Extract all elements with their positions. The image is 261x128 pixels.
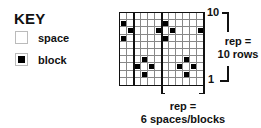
block-cell (190, 63, 197, 70)
space-cell (134, 35, 141, 42)
col-repeat-line1: rep = (135, 100, 231, 113)
space-cell (176, 78, 183, 85)
space-cell (162, 49, 169, 56)
col-bracket-right-tick (199, 93, 204, 95)
space-cell (162, 56, 169, 63)
space-cell (190, 20, 197, 27)
space-cell (183, 49, 190, 56)
space-cell (176, 27, 183, 34)
key-title: KEY (14, 10, 45, 27)
space-cell (183, 27, 190, 34)
space-cell (148, 71, 155, 78)
col-bracket-left-tick (161, 93, 165, 95)
block-cell (183, 71, 190, 78)
space-cell (134, 13, 141, 20)
key-item-space: space (15, 31, 69, 44)
space-cell (190, 42, 197, 49)
row-bracket-bottom-tick (220, 80, 229, 82)
row-label-top: 10 (207, 6, 219, 18)
space-cell (120, 78, 127, 85)
space-cell (134, 49, 141, 56)
space-cell (141, 63, 148, 70)
space-cell (176, 20, 183, 27)
space-cell (141, 13, 148, 20)
space-cell (148, 78, 155, 85)
space-cell (141, 20, 148, 27)
space-cell (169, 56, 176, 63)
key-label-space: space (38, 32, 69, 44)
space-cell (148, 56, 155, 63)
block-cell (141, 71, 148, 78)
space-cell (190, 49, 197, 56)
space-cell (190, 13, 197, 20)
space-cell (141, 35, 148, 42)
space-cell (176, 42, 183, 49)
space-cell (120, 56, 127, 63)
space-cell (176, 71, 183, 78)
block-cell (120, 20, 127, 27)
space-cell (176, 35, 183, 42)
space-cell (148, 13, 155, 20)
space-cell (162, 27, 169, 34)
row-label-bottom: 1 (208, 73, 214, 85)
space-cell (190, 27, 197, 34)
space-cell (141, 49, 148, 56)
space-swatch-icon (15, 31, 28, 44)
key-item-block: block (15, 53, 67, 66)
space-cell (190, 56, 197, 63)
space-cell (162, 71, 169, 78)
space-cell (148, 27, 155, 34)
space-cell (134, 56, 141, 63)
block-cell (162, 20, 169, 27)
space-cell (141, 42, 148, 49)
row-repeat-label: rep = 10 rows (214, 35, 261, 61)
space-cell (120, 63, 127, 70)
space-cell (169, 13, 176, 20)
row-bracket-lower (227, 66, 229, 81)
space-cell (169, 49, 176, 56)
space-cell (183, 42, 190, 49)
block-cell (183, 56, 190, 63)
space-cell (183, 20, 190, 27)
space-cell (176, 49, 183, 56)
space-cell (120, 71, 127, 78)
block-cell (169, 27, 176, 34)
space-cell (120, 13, 127, 20)
space-cell (120, 42, 127, 49)
space-cell (120, 27, 127, 34)
space-cell (162, 13, 169, 20)
repeat-divider-left (133, 12, 135, 85)
space-cell (169, 63, 176, 70)
space-cell (148, 49, 155, 56)
space-cell (176, 56, 183, 63)
block-cell (148, 63, 155, 70)
key-label-block: block (38, 54, 67, 66)
space-cell (162, 42, 169, 49)
space-cell (148, 35, 155, 42)
space-cell (190, 35, 197, 42)
col-repeat-line2: 6 spaces/blocks (135, 113, 231, 126)
space-cell (162, 78, 169, 85)
block-cell (120, 35, 127, 42)
space-cell (169, 35, 176, 42)
space-cell (134, 42, 141, 49)
space-cell (148, 20, 155, 27)
space-cell (190, 78, 197, 85)
row-repeat-line2: 10 rows (214, 48, 261, 61)
space-cell (120, 49, 127, 56)
space-cell (176, 13, 183, 20)
block-swatch-icon (15, 53, 28, 66)
row-repeat-line1: rep = (214, 35, 261, 48)
space-cell (169, 20, 176, 27)
row-bracket-upper (227, 12, 229, 32)
space-cell (183, 63, 190, 70)
space-cell (134, 20, 141, 27)
space-cell (169, 42, 176, 49)
space-cell (134, 27, 141, 34)
block-cell (134, 63, 141, 70)
col-repeat-label: rep = 6 spaces/blocks (135, 100, 231, 126)
space-cell (162, 63, 169, 70)
space-cell (134, 78, 141, 85)
space-cell (190, 71, 197, 78)
space-cell (169, 71, 176, 78)
